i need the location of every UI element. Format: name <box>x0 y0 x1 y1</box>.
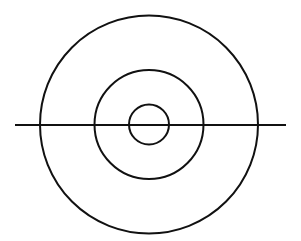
diagram-canvas <box>0 0 301 241</box>
concentric-circles-diagram <box>0 0 301 241</box>
